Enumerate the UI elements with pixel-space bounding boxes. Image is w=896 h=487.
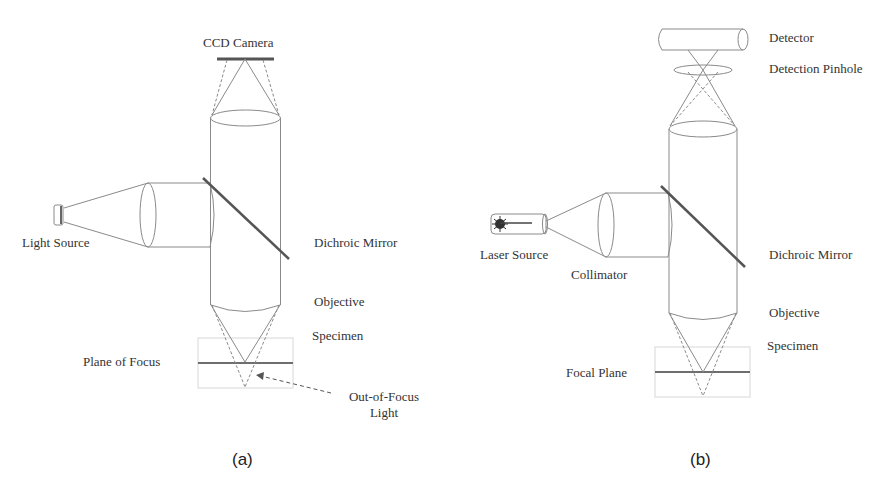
label-detector: Detector — [769, 31, 814, 44]
label-objective-b: Objective — [769, 306, 820, 319]
label-detection-pinhole: Detection Pinhole — [769, 62, 863, 75]
microscopy-diagram — [0, 0, 896, 487]
label-objective-a: Objective — [314, 295, 365, 308]
panel-a-widefield — [54, 59, 331, 393]
label-collimator: Collimator — [571, 268, 627, 281]
label-plane-of-focus: Plane of Focus — [83, 355, 160, 368]
focus-cone — [211, 305, 280, 387]
label-dichroic-mirror-a: Dichroic Mirror — [314, 236, 397, 249]
dichroic-mirror — [203, 178, 289, 259]
main-tube — [211, 110, 281, 305]
illumination-tube — [140, 183, 214, 247]
out-of-focus-line2: Light — [336, 406, 432, 419]
label-specimen-a: Specimen — [312, 329, 363, 342]
label-dichroic-mirror-b: Dichroic Mirror — [769, 248, 852, 261]
caption-b: (b) — [690, 451, 711, 468]
label-light-source: Light Source — [22, 236, 90, 249]
camera-rays — [212, 59, 279, 115]
caption-a: (a) — [232, 451, 253, 468]
collimator — [598, 193, 672, 257]
dichroic-mirror-b — [661, 186, 745, 267]
collector-lens — [140, 183, 156, 247]
main-tube-b — [669, 121, 737, 313]
panel-b-confocal — [491, 29, 750, 397]
focus-cone-b — [669, 313, 737, 396]
label-laser-source: Laser Source — [480, 248, 548, 261]
pinhole-rays — [670, 70, 735, 126]
label-specimen-b: Specimen — [767, 339, 818, 352]
out-of-focus-line1: Out-of-Focus — [336, 390, 432, 403]
objective-lens-b — [669, 313, 737, 320]
objective-lens — [211, 305, 280, 312]
label-out-of-focus-light: Out-of-Focus Light — [336, 390, 432, 419]
label-focal-plane: Focal Plane — [566, 366, 627, 379]
label-ccd-camera: CCD Camera — [203, 36, 273, 49]
detector — [659, 29, 749, 50]
